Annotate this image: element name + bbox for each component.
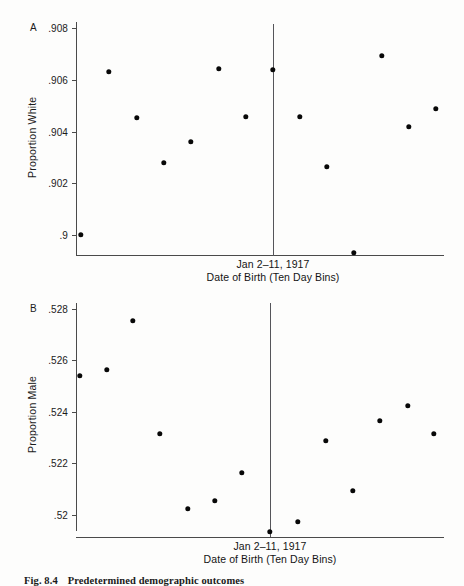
data-point — [323, 438, 328, 443]
panel-a-tick-mark — [72, 28, 77, 29]
panel-b-x-axis-title: Date of Birth (Ten Day Bins) — [160, 553, 380, 565]
panel-a-tick-label: .904 — [18, 127, 68, 138]
panel-b-tick-label: .526 — [18, 355, 68, 366]
data-point — [130, 318, 135, 323]
data-point — [161, 160, 166, 165]
figure-caption-number: Fig. 8.4 — [24, 575, 58, 586]
data-point — [78, 232, 83, 237]
panel-b-tick-label: .528 — [18, 304, 68, 315]
panel-a-tick-label: .906 — [18, 75, 68, 86]
panel-b-threshold-line — [270, 303, 271, 537]
data-point — [433, 106, 438, 111]
figure-container: A Proportion White .908 .906 .904 .902 .… — [0, 0, 464, 586]
figure-caption: Fig. 8.4Predetermined demographic outcom… — [24, 574, 454, 586]
data-point — [157, 431, 162, 436]
panel-a-x-axis-title: Date of Birth (Ten Day Bins) — [163, 271, 383, 283]
data-point — [104, 367, 109, 372]
panel-a-y-axis-line — [76, 22, 77, 256]
data-point — [185, 506, 190, 511]
panel-b-tick-mark — [72, 515, 77, 516]
panel-a-tick-mark — [72, 80, 77, 81]
panel-b-tick-mark — [72, 360, 77, 361]
panel-b-tick-label: .52 — [18, 510, 68, 521]
data-point — [324, 164, 329, 169]
figure-caption-text: Predetermined demographic outcomes — [68, 575, 244, 586]
panel-a-threshold-label: Jan 2–11, 1917 — [193, 258, 353, 270]
panel-b-tick-label: .524 — [18, 407, 68, 418]
data-point — [188, 139, 193, 144]
data-point — [297, 114, 302, 119]
panel-b-tick-label: .522 — [18, 458, 68, 469]
data-point — [270, 67, 275, 72]
panel-b-threshold-label: Jan 2–11, 1917 — [190, 540, 350, 552]
data-point — [350, 488, 355, 493]
panel-b-x-axis-line — [76, 537, 444, 538]
data-point — [431, 431, 436, 436]
panel-a-tick-mark — [72, 183, 77, 184]
data-point — [239, 470, 244, 475]
data-point — [267, 529, 272, 534]
data-point — [243, 114, 248, 119]
panel-b-tick-mark — [72, 412, 77, 413]
panel-a-tick-label: .9 — [18, 230, 68, 241]
panel-a-tick-label: .902 — [18, 178, 68, 189]
panel-b-tick-mark — [72, 463, 77, 464]
data-point — [77, 373, 82, 378]
data-point — [212, 498, 217, 503]
panel-a-tick-label: .908 — [18, 23, 68, 34]
data-point — [377, 418, 382, 423]
panel-a-tick-mark — [72, 235, 77, 236]
data-point — [405, 403, 410, 408]
panel-a: A Proportion White .908 .906 .904 .902 .… — [0, 0, 464, 293]
data-point — [106, 69, 111, 74]
data-point — [134, 115, 139, 120]
data-point — [295, 519, 300, 524]
data-point — [379, 53, 384, 58]
panel-a-threshold-line — [273, 24, 274, 256]
data-point — [216, 66, 221, 71]
panel-b-y-axis-line — [76, 303, 77, 531]
panel-b-tick-mark — [72, 309, 77, 310]
data-point — [406, 124, 411, 129]
panel-b: B Proportion Male .528 .526 .524 .522 .5… — [0, 293, 464, 586]
panel-a-x-axis-line — [76, 255, 444, 256]
panel-a-tick-mark — [72, 132, 77, 133]
